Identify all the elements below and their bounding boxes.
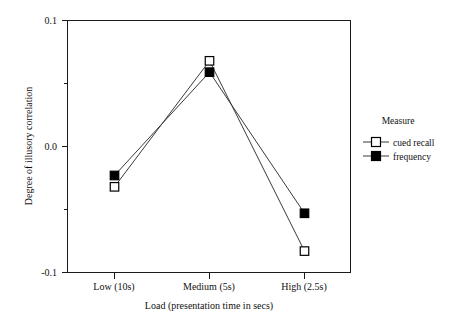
illusory-correlation-line-chart: 0.1 0.0 -0.1 Degree of illusory correlat… bbox=[0, 0, 452, 325]
legend-marker-filled-square bbox=[372, 152, 381, 161]
legend-item-frequency[interactable]: frequency bbox=[363, 152, 431, 162]
data-point-cued-recall-Medium-5s bbox=[205, 57, 214, 66]
legend-marker-open-square bbox=[372, 138, 381, 147]
x-tick-label-high: High (2.5s) bbox=[281, 281, 327, 293]
legend-item-cued-recall[interactable]: cued recall bbox=[363, 138, 435, 148]
series-markers-cued-recall bbox=[110, 57, 309, 256]
x-tick-label-medium: Medium (5s) bbox=[183, 281, 235, 293]
y-axis-title: Degree of illusory correlation bbox=[23, 87, 34, 206]
data-point-frequency-Medium-5s bbox=[205, 68, 214, 77]
legend: Measure cued recall frequency bbox=[363, 116, 435, 162]
y-axis-ticks bbox=[62, 21, 68, 273]
y-tick-label-bottom: -0.1 bbox=[41, 267, 57, 278]
y-tick-label-top: 0.1 bbox=[45, 15, 58, 26]
data-point-cued-recall-High-2-5s bbox=[300, 247, 309, 256]
series-line-cued-recall bbox=[115, 61, 305, 251]
data-point-frequency-High-2-5s bbox=[300, 209, 309, 218]
data-point-cued-recall-Low-10s bbox=[110, 183, 119, 192]
chart-figure: 0.1 0.0 -0.1 Degree of illusory correlat… bbox=[0, 0, 452, 325]
series-markers-frequency bbox=[110, 68, 309, 218]
legend-title: Measure bbox=[382, 116, 415, 126]
legend-label-cued-recall: cued recall bbox=[393, 138, 435, 148]
y-tick-label-mid: 0.0 bbox=[45, 141, 58, 152]
series-lines bbox=[115, 61, 305, 251]
x-tick-label-low: Low (10s) bbox=[93, 281, 134, 293]
legend-label-frequency: frequency bbox=[393, 152, 431, 162]
data-point-frequency-Low-10s bbox=[110, 171, 119, 180]
x-axis-ticks bbox=[115, 273, 305, 279]
series-line-frequency bbox=[115, 72, 305, 213]
x-axis-title: Load (presentation time in secs) bbox=[145, 300, 273, 312]
